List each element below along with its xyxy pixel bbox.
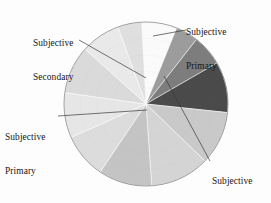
annotation-line-2: Primary	[186, 61, 227, 72]
annotation-line-1: Subjective	[186, 27, 227, 38]
annotation-line-1: Subjective	[5, 132, 46, 143]
annotation-subjective-secondary: Subjective Secondary	[33, 16, 74, 106]
annotation-subjective-primary-left: Subjective Primary	[5, 110, 46, 200]
annotation-line-2: Secondary	[33, 72, 74, 83]
annotation-line-1: Subjective	[33, 38, 74, 49]
figure-canvas: Subjective Primary Subjective Secondary …	[0, 0, 271, 203]
annotation-line-2: Primary	[5, 166, 46, 177]
annotation-subjective-neutral: Subjective Neutral	[212, 154, 253, 203]
annotation-subjective-primary-top: Subjective Primary	[186, 5, 227, 95]
annotation-line-1: Subjective	[212, 176, 253, 187]
